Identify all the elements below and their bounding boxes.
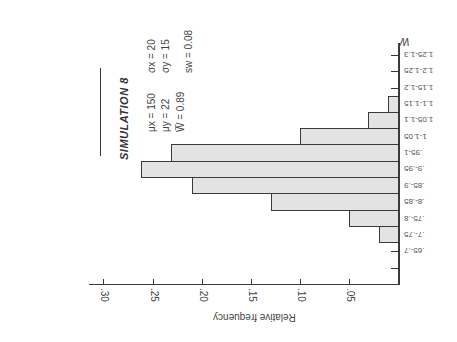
bar-1-1.05 [300, 128, 399, 145]
bin-label: .75-.8 [404, 214, 424, 223]
tick-30 [103, 279, 104, 284]
bin-label: .7-.75 [404, 230, 424, 239]
stat-sigma-y: σy = 15 [160, 39, 171, 73]
tick-15 [251, 279, 252, 284]
cat-tick [391, 55, 398, 56]
cat-tick [391, 88, 398, 89]
bin-label: 1.1-1.15 [404, 99, 433, 108]
title-rule [100, 68, 101, 156]
value-tick-label-05: .05 [345, 288, 356, 302]
bar-.9-.95 [141, 161, 399, 178]
bar-.85-.9 [192, 177, 399, 194]
tick-20 [202, 279, 203, 284]
bin-label: 1.15-1.2 [404, 83, 433, 92]
value-axis-title: Relative frequency [213, 312, 296, 323]
cat-tick [391, 268, 398, 269]
tick-05 [349, 279, 350, 284]
value-tick-label-15: .15 [247, 288, 258, 302]
stat-mu-y: μy = 22 [160, 99, 171, 132]
cat-tick [391, 251, 398, 252]
category-axis-title: W [400, 36, 409, 47]
bin-label: 1.25-1.3 [404, 50, 433, 59]
tick-10 [300, 279, 301, 284]
stat-w-bar: W̅ = 0.89 [175, 92, 186, 132]
bar-1.05-1.1 [368, 112, 399, 129]
cat-tick [391, 71, 398, 72]
stat-s-w: sw = 0.08 [183, 30, 194, 73]
bar-.8-.85 [271, 193, 399, 211]
bar-.7-.75 [379, 226, 399, 243]
bin-label: 1.2-1.25 [404, 66, 433, 75]
bar-.75-.8 [349, 210, 399, 227]
tick-25 [153, 279, 154, 284]
chart-title: SIMULATION 8 [118, 77, 130, 160]
bin-label: .85-.9 [404, 181, 424, 190]
bin-label: .95-1 [404, 148, 422, 157]
bin-label: 1-1.05 [404, 132, 427, 141]
stat-sigma-x: σx = 20 [146, 39, 157, 73]
bin-label: .8-.85 [404, 197, 424, 206]
value-tick-label-20: .20 [198, 288, 209, 302]
value-tick-label-30: .30 [99, 288, 110, 302]
bin-label: 1.05-1.1 [404, 115, 433, 124]
bin-label: .65-.7 [404, 246, 424, 255]
stat-mu-x: μx = 150 [146, 93, 157, 132]
value-tick-label-25: .25 [149, 288, 160, 302]
value-axis-line [89, 284, 399, 285]
bar-.95-1 [171, 144, 399, 162]
value-tick-label-10: .10 [296, 288, 307, 302]
bar-1.1-1.15 [388, 96, 399, 113]
bin-label: .9-.95 [404, 164, 424, 173]
